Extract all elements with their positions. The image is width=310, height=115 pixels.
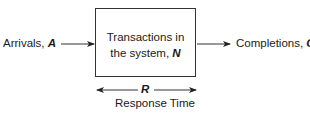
system-label-line2: the system, N	[95, 45, 196, 61]
completions-variable: C	[306, 37, 310, 49]
system-text: the system,	[110, 47, 172, 59]
response-time-label: Response Time	[115, 98, 195, 110]
arrivals-label: Arrivals, A	[3, 38, 56, 50]
response-time-variable: R	[141, 84, 149, 96]
completions-label: Completions, C	[236, 38, 310, 50]
system-variable: N	[172, 47, 180, 59]
system-label: Transactions in the system, N	[95, 29, 196, 61]
arrivals-variable: A	[48, 37, 56, 49]
completions-text: Completions,	[236, 37, 306, 49]
arrivals-text: Arrivals,	[3, 37, 48, 49]
system-label-line1: Transactions in	[95, 29, 196, 45]
